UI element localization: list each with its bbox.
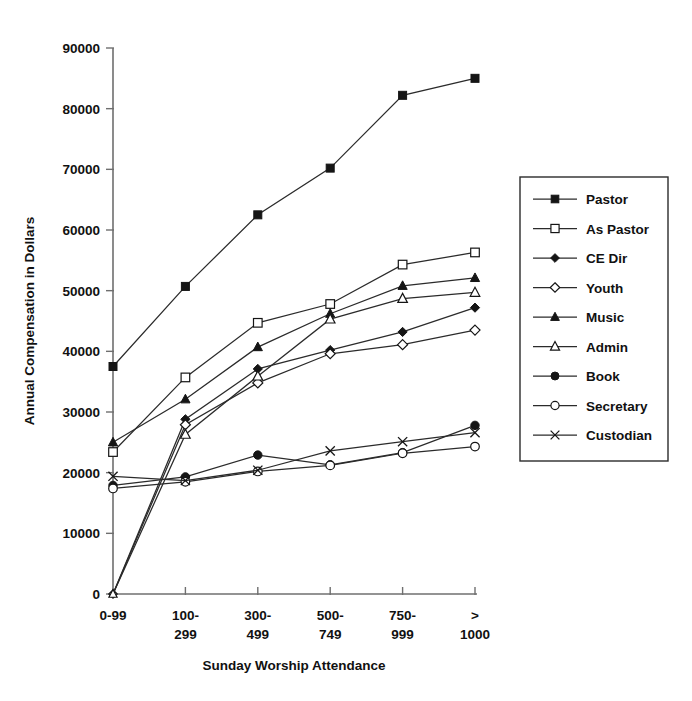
legend-label: Book: [586, 369, 620, 384]
marker-filled-square: [399, 91, 407, 99]
marker-open-circle: [551, 401, 559, 409]
y-tick-label: 80000: [62, 102, 100, 117]
x-tick-label-line2: 999: [391, 627, 414, 642]
marker-open-circle: [326, 461, 335, 470]
x-tick-label-line2: 499: [247, 627, 270, 642]
legend-label: Custodian: [586, 428, 652, 443]
compensation-line-chart: 0100002000030000400005000060000700008000…: [0, 0, 692, 701]
legend-label: Secretary: [586, 399, 648, 414]
marker-filled-square: [326, 164, 334, 172]
y-tick-label: 90000: [62, 41, 100, 56]
x-tick-label-line2: 1000: [460, 627, 490, 642]
y-tick-label: 60000: [62, 223, 100, 238]
y-tick-label: 20000: [62, 466, 100, 481]
x-tick-label-line2: 299: [174, 627, 197, 642]
marker-open-circle: [109, 484, 118, 493]
y-tick-label: 40000: [62, 344, 100, 359]
marker-filled-circle: [471, 421, 479, 429]
x-tick-label: 100-: [172, 608, 199, 623]
marker-filled-square: [181, 282, 189, 290]
marker-filled-square: [471, 74, 479, 82]
x-tick-label: 300-: [244, 608, 271, 623]
chart-legend: PastorAs PastorCE DirYouthMusicAdminBook…: [520, 177, 668, 461]
y-axis-title: Annual Compensation in Dollars: [22, 217, 37, 426]
marker-open-square: [471, 248, 480, 257]
x-tick-label: >: [471, 608, 479, 623]
y-tick-label: 70000: [62, 162, 100, 177]
marker-filled-square: [254, 211, 262, 219]
legend-label: Admin: [586, 340, 628, 355]
marker-open-square: [109, 448, 118, 457]
chart-container: 0100002000030000400005000060000700008000…: [0, 0, 692, 701]
y-tick-label: 10000: [62, 526, 100, 541]
marker-open-square: [254, 319, 263, 328]
x-tick-label: 750-: [389, 608, 416, 623]
marker-open-circle: [471, 442, 480, 451]
x-axis-title: Sunday Worship Attendance: [202, 658, 386, 673]
marker-open-square: [398, 260, 407, 269]
x-tick-label: 0-99: [99, 608, 126, 623]
marker-open-square: [181, 373, 190, 382]
marker-open-circle: [253, 467, 262, 476]
marker-open-circle: [181, 477, 190, 486]
marker-filled-square: [551, 195, 559, 203]
legend-label: CE Dir: [586, 251, 628, 266]
marker-open-square: [551, 224, 559, 232]
x-tick-label: 500-: [317, 608, 344, 623]
y-tick-label: 50000: [62, 284, 100, 299]
x-tick-label-line2: 749: [319, 627, 342, 642]
marker-filled-square: [109, 363, 117, 371]
marker-filled-circle: [254, 451, 262, 459]
marker-filled-circle: [551, 372, 559, 380]
marker-open-square: [326, 300, 335, 309]
marker-open-circle: [398, 449, 407, 458]
y-tick-label: 30000: [62, 405, 100, 420]
legend-label: Youth: [586, 281, 623, 296]
y-tick-label: 0: [92, 587, 100, 602]
legend-label: Pastor: [586, 192, 629, 207]
legend-label: Music: [586, 310, 625, 325]
legend-label: As Pastor: [586, 222, 650, 237]
